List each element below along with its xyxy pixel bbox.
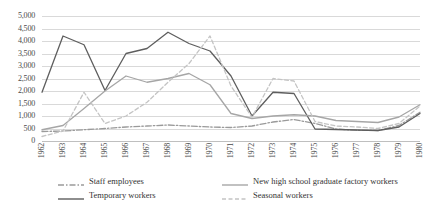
legend-label: Temporary workers [89, 190, 156, 200]
series-line-new-high-school-graduate-factory-workers [42, 74, 420, 130]
y-axis-tick-label: 0 [31, 137, 35, 145]
legend-entry-new-high-school-graduate-factory-workers: New high school graduate factory workers [222, 176, 398, 186]
x-axis-tick-label: 1968 [164, 143, 172, 158]
y-axis-tick-label: 1,500 [18, 100, 35, 108]
legend-row: Staff employees New high school graduate… [0, 174, 431, 188]
x-axis-tick-label: 1974 [290, 143, 298, 158]
x-axis-tick-label: 1975 [311, 143, 319, 158]
x-axis-tick-label: 1979 [395, 143, 403, 158]
y-axis-tick-label: 2,500 [18, 75, 35, 83]
y-axis-tick-label: 2,000 [18, 87, 35, 95]
x-axis-tick-label: 1966 [122, 143, 130, 158]
y-axis-tick-label: 4,000 [18, 37, 35, 45]
legend-swatch-icon [222, 190, 248, 200]
x-axis-tick-label: 1963 [59, 143, 67, 158]
y-axis-tick-label: 3,000 [18, 62, 35, 70]
y-axis-tick-label: 3,500 [18, 50, 35, 58]
legend-entry-temporary-workers: Temporary workers [58, 190, 156, 200]
x-axis-tick-label: 1970 [206, 143, 214, 158]
x-axis: 1962196319641965196619671968196919701971… [42, 143, 420, 171]
line-chart: 5,0004,5004,0003,5003,0002,5002,0001,500… [0, 0, 431, 210]
legend-swatch-icon [222, 176, 248, 186]
x-axis-tick-label: 1962 [38, 143, 46, 158]
x-axis-tick-label: 1978 [374, 143, 382, 158]
x-axis-tick-label: 1967 [143, 143, 151, 158]
y-axis-tick-label: 5,000 [18, 12, 35, 20]
legend-swatch-icon [58, 176, 84, 186]
legend-entry-staff-employees: Staff employees [58, 176, 144, 186]
x-axis-tick-label: 1969 [185, 143, 193, 158]
x-axis-tick-label: 1973 [269, 143, 277, 158]
series-line-temporary-workers [42, 32, 420, 130]
x-axis-tick-label: 1964 [80, 143, 88, 158]
x-axis-tick-label: 1977 [353, 143, 361, 158]
y-axis-tick-label: 4,500 [18, 25, 35, 33]
x-axis-tick-label: 1965 [101, 143, 109, 158]
y-axis-tick-label: 500 [24, 125, 35, 133]
legend-label: Seasonal workers [253, 190, 313, 200]
chart-legend: Staff employees New high school graduate… [0, 174, 431, 206]
plot-area [42, 16, 420, 141]
gridline [42, 141, 420, 142]
legend-swatch-icon [58, 190, 84, 200]
legend-label: Staff employees [89, 176, 144, 186]
x-axis-tick-label: 1971 [227, 143, 235, 158]
y-axis-tick-label: 1,000 [18, 112, 35, 120]
x-axis-tick-label: 1980 [416, 143, 424, 158]
legend-row: Temporary workers Seasonal workers [0, 188, 431, 202]
legend-label: New high school graduate factory workers [253, 176, 398, 186]
x-axis-tick-label: 1972 [248, 143, 256, 158]
legend-entry-seasonal-workers: Seasonal workers [222, 190, 313, 200]
series-container [42, 16, 420, 141]
x-axis-tick-label: 1976 [332, 143, 340, 158]
y-axis: 5,0004,5004,0003,5003,0002,5002,0001,500… [0, 16, 38, 141]
